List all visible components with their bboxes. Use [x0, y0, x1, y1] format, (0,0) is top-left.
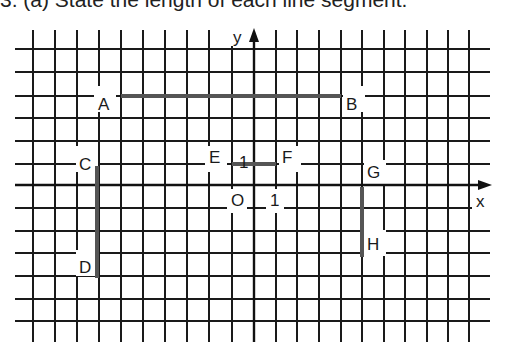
- point-label-A: A: [98, 95, 110, 114]
- x-unit-label: 1: [270, 191, 279, 210]
- axes: [15, 36, 484, 342]
- origin-label: O: [231, 191, 244, 210]
- point-label-F: F: [282, 148, 292, 167]
- y-axis-label: y: [233, 28, 242, 47]
- y-axis-arrow-icon: [249, 28, 259, 42]
- point-label-D: D: [79, 258, 91, 277]
- y-unit-label: 1: [239, 153, 248, 172]
- point-label-H: H: [367, 235, 379, 254]
- x-axis-arrow-icon: [478, 180, 492, 190]
- point-label-C: C: [79, 155, 91, 174]
- x-axis-label: x: [476, 192, 485, 211]
- point-label-E: E: [209, 148, 220, 167]
- point-label-B: B: [346, 95, 357, 114]
- point-label-G: G: [367, 163, 380, 182]
- coordinate-grid: A B C D E F G H O 1 1 y x: [0, 0, 507, 362]
